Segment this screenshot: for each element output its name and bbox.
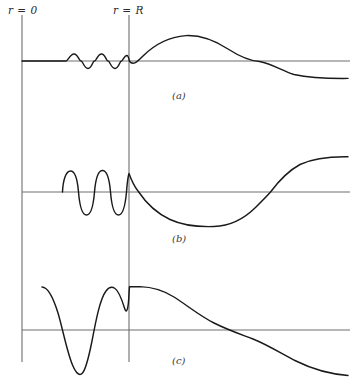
panel-label-a: (a): [172, 90, 186, 101]
label-r-zero: r = 0: [8, 4, 38, 16]
curve-panel-c: [42, 287, 348, 376]
panel-label-b: (b): [172, 233, 186, 244]
wavefunction-figure: [0, 0, 354, 377]
label-r-radius: r = R: [113, 4, 144, 16]
curve-panel-a: [22, 36, 348, 79]
panel-c-axes: [22, 262, 350, 362]
panel-label-c: (c): [172, 355, 185, 366]
panel-a-axes: [22, 20, 350, 130]
